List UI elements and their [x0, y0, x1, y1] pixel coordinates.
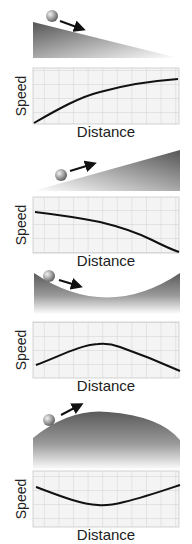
ball-icon: [43, 414, 55, 426]
x-axis-label: Distance: [77, 252, 135, 269]
panel-valley: Speed Distance: [13, 270, 180, 394]
uphill-slope-illustration: [33, 150, 180, 191]
ball-icon: [55, 169, 67, 181]
panel-hill: Speed Distance: [13, 405, 180, 543]
x-axis-label: Distance: [77, 526, 135, 543]
x-axis-label: Distance: [77, 377, 135, 394]
chart-hill: Speed Distance: [13, 471, 180, 543]
arrow-icon: [70, 164, 93, 171]
y-axis-label: Speed: [13, 76, 29, 116]
downhill-slope-illustration: [33, 10, 178, 58]
arrow-icon: [60, 21, 82, 29]
ball-icon: [46, 10, 58, 22]
valley-illustration: [34, 270, 180, 314]
arrow-icon: [59, 280, 79, 286]
arrow-icon: [61, 405, 80, 415]
x-axis-label: Distance: [77, 123, 135, 140]
chart-uphill: Speed Distance: [13, 197, 179, 269]
chart-valley: Speed Distance: [13, 322, 180, 394]
ball-icon: [43, 270, 55, 282]
y-axis-label: Speed: [13, 330, 29, 370]
panel-uphill: Speed Distance: [13, 150, 180, 269]
panel-downhill: Speed Distance: [13, 10, 179, 140]
y-axis-label: Speed: [13, 205, 29, 245]
speed-distance-diagram: Speed Distance Speed Distance: [0, 0, 192, 544]
y-axis-label: Speed: [13, 479, 29, 519]
hill-illustration: [33, 405, 180, 470]
chart-downhill: Speed Distance: [13, 68, 179, 140]
